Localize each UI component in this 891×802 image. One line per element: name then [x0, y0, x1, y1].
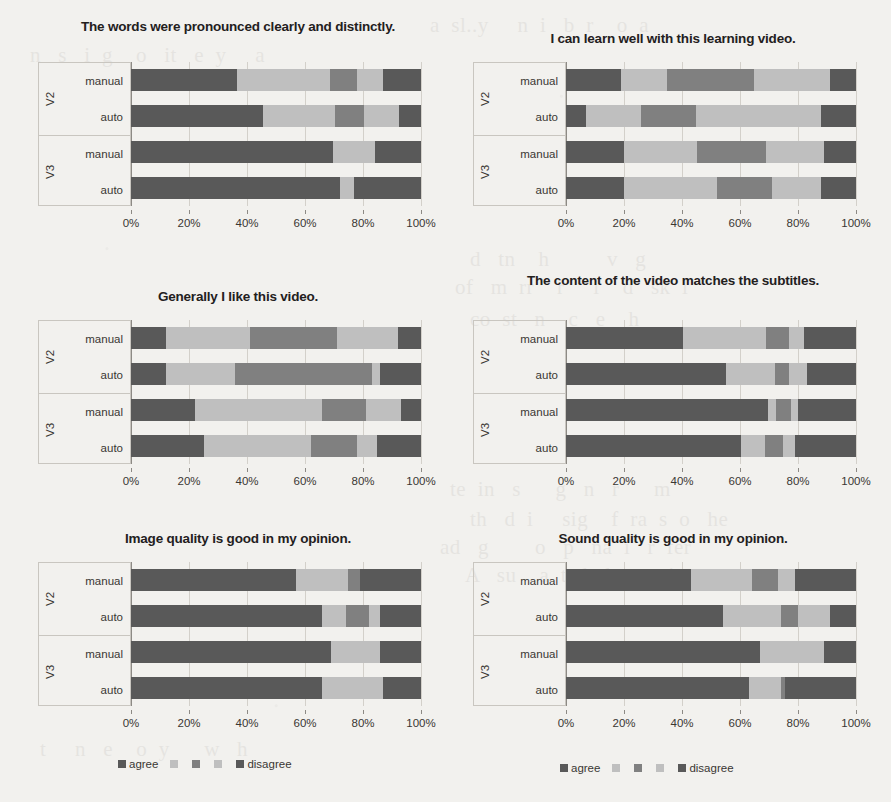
bar-segment-2[interactable]: [333, 141, 375, 163]
bar-segment-3[interactable]: [766, 327, 789, 349]
bar-segment-disagree[interactable]: [354, 177, 421, 199]
bar-segment-disagree[interactable]: [821, 105, 856, 127]
bar-segment-disagree[interactable]: [380, 641, 421, 663]
bar-v2-manual[interactable]: [131, 327, 421, 349]
bar-v3-auto[interactable]: [566, 177, 856, 199]
bar-segment-disagree[interactable]: [821, 177, 856, 199]
bar-segment-disagree[interactable]: [795, 435, 856, 457]
bar-segment-disagree[interactable]: [824, 641, 856, 663]
bar-segment-2[interactable]: [331, 641, 380, 663]
bar-segment-2[interactable]: [586, 105, 641, 127]
bar-v2-auto[interactable]: [566, 605, 856, 627]
bar-segment-disagree[interactable]: [375, 141, 421, 163]
bar-segment-3[interactable]: [235, 363, 371, 385]
bar-segment-disagree[interactable]: [804, 327, 856, 349]
legend-item-0[interactable]: agree: [560, 762, 612, 774]
bar-segment-3[interactable]: [346, 605, 369, 627]
bar-segment-2[interactable]: [726, 363, 775, 385]
bar-segment-4[interactable]: [766, 141, 824, 163]
bar-v3-manual[interactable]: [566, 141, 856, 163]
bar-segment-3[interactable]: [322, 399, 366, 421]
bar-segment-agree[interactable]: [131, 69, 237, 91]
bar-segment-4[interactable]: [754, 69, 829, 91]
bar-segment-agree[interactable]: [131, 363, 166, 385]
bar-segment-4[interactable]: [791, 399, 798, 421]
bar-segment-2[interactable]: [768, 399, 777, 421]
bar-segment-disagree[interactable]: [377, 435, 421, 457]
bar-segment-4[interactable]: [789, 327, 804, 349]
bar-v2-auto[interactable]: [131, 605, 421, 627]
bar-segment-2[interactable]: [624, 177, 717, 199]
bar-segment-disagree[interactable]: [795, 569, 856, 591]
bar-segment-2[interactable]: [723, 605, 781, 627]
bar-segment-disagree[interactable]: [360, 569, 421, 591]
bar-segment-3[interactable]: [775, 363, 790, 385]
bar-segment-2[interactable]: [322, 677, 383, 699]
bar-segment-3[interactable]: [330, 69, 358, 91]
bar-segment-agree[interactable]: [566, 641, 760, 663]
bar-segment-agree[interactable]: [131, 177, 340, 199]
bar-segment-disagree[interactable]: [807, 363, 856, 385]
bar-segment-4[interactable]: [772, 177, 821, 199]
bar-segment-disagree[interactable]: [399, 105, 421, 127]
bar-segment-agree[interactable]: [566, 105, 586, 127]
bar-segment-3[interactable]: [776, 399, 791, 421]
legend-item-4[interactable]: disagree: [236, 758, 303, 770]
bar-segment-disagree[interactable]: [380, 363, 421, 385]
bar-v3-manual[interactable]: [131, 399, 421, 421]
bar-segment-3[interactable]: [717, 177, 772, 199]
bar-segment-agree[interactable]: [131, 105, 263, 127]
bar-segment-disagree[interactable]: [830, 69, 856, 91]
bar-segment-agree[interactable]: [566, 677, 749, 699]
bar-v2-auto[interactable]: [131, 363, 421, 385]
legend-item-3[interactable]: [214, 760, 236, 768]
bar-segment-2[interactable]: [683, 327, 766, 349]
bar-segment-disagree[interactable]: [383, 677, 421, 699]
bar-segment-2[interactable]: [621, 69, 667, 91]
bar-segment-4[interactable]: [798, 605, 830, 627]
legend-item-0[interactable]: agree: [118, 758, 170, 770]
bar-segment-disagree[interactable]: [824, 141, 856, 163]
bar-segment-disagree[interactable]: [401, 399, 421, 421]
legend-item-1[interactable]: [170, 760, 192, 768]
bar-segment-agree[interactable]: [566, 435, 741, 457]
bar-segment-3[interactable]: [335, 105, 364, 127]
bar-segment-2[interactable]: [340, 177, 355, 199]
bar-segment-agree[interactable]: [566, 363, 726, 385]
legend-item-2[interactable]: [192, 760, 214, 768]
bar-segment-disagree[interactable]: [798, 399, 856, 421]
bar-v2-manual[interactable]: [566, 569, 856, 591]
legend-item-1[interactable]: [612, 764, 634, 772]
bar-segment-4[interactable]: [357, 69, 383, 91]
bar-segment-agree[interactable]: [566, 69, 621, 91]
bar-v3-auto[interactable]: [131, 435, 421, 457]
bar-v3-auto[interactable]: [131, 177, 421, 199]
bar-v3-manual[interactable]: [131, 141, 421, 163]
bar-segment-4[interactable]: [696, 105, 821, 127]
bar-segment-agree[interactable]: [131, 327, 166, 349]
bar-segment-2[interactable]: [296, 569, 348, 591]
bar-v3-auto[interactable]: [566, 435, 856, 457]
bar-v3-manual[interactable]: [566, 399, 856, 421]
bar-segment-disagree[interactable]: [398, 327, 421, 349]
bar-segment-disagree[interactable]: [785, 677, 856, 699]
bar-segment-agree[interactable]: [566, 605, 723, 627]
bar-v3-manual[interactable]: [566, 641, 856, 663]
bar-v2-auto[interactable]: [131, 105, 421, 127]
bar-segment-3[interactable]: [752, 569, 778, 591]
bar-segment-2[interactable]: [195, 399, 323, 421]
bar-segment-3[interactable]: [667, 69, 754, 91]
bar-segment-2[interactable]: [760, 641, 824, 663]
bar-v3-auto[interactable]: [131, 677, 421, 699]
bar-segment-agree[interactable]: [131, 569, 296, 591]
bar-segment-disagree[interactable]: [383, 69, 421, 91]
bar-segment-2[interactable]: [322, 605, 345, 627]
bar-v3-auto[interactable]: [566, 677, 856, 699]
bar-segment-agree[interactable]: [131, 641, 331, 663]
legend-item-4[interactable]: disagree: [678, 762, 745, 774]
bar-segment-4[interactable]: [364, 105, 399, 127]
legend-item-3[interactable]: [656, 764, 678, 772]
bar-segment-3[interactable]: [250, 327, 337, 349]
bar-segment-agree[interactable]: [131, 435, 204, 457]
bar-segment-4[interactable]: [783, 435, 795, 457]
